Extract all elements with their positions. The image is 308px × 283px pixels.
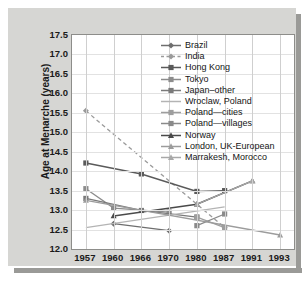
legend-marker-icon (168, 110, 173, 115)
legend-item: Wroclaw, Poland (160, 96, 292, 107)
chart-panel: Age at Menarche (years) 12.012.513.013.5… (8, 8, 296, 266)
x-tick-label: 1987 (213, 252, 234, 263)
y-tick-label: 14.0 (50, 165, 69, 176)
x-tick-label: 1993 (269, 252, 290, 263)
legend-label: Brazil (182, 40, 208, 51)
legend-label: India (182, 51, 205, 62)
chart-legend: BrazilIndiaHong KongTokyoJapan–otherWroc… (160, 40, 292, 163)
legend-label: Poland—cities (182, 107, 243, 118)
legend-marker-icon (168, 88, 173, 93)
legend-label: Wroclaw, Poland (182, 96, 252, 107)
legend-label: Japan–other (182, 85, 235, 96)
horizontal-gridline (72, 210, 294, 211)
legend-item: Hong Kong (160, 62, 292, 73)
legend-label: Tokyo (182, 74, 209, 85)
legend-swatch-icon (160, 85, 182, 96)
y-tick-label: 14.5 (50, 145, 69, 156)
legend-swatch-icon (160, 74, 182, 85)
legend-item: India (160, 51, 292, 62)
horizontal-gridline (72, 191, 294, 192)
legend-marker-icon (168, 121, 173, 126)
legend-item: Tokyo (160, 74, 292, 85)
y-tick-label: 13.5 (50, 184, 69, 195)
legend-item: London, UK-European (160, 141, 292, 152)
x-tick-label: 1966 (130, 252, 151, 263)
legend-swatch-icon (160, 62, 182, 73)
legend-item: Japan–other (160, 85, 292, 96)
y-tick-label: 15.0 (50, 126, 69, 137)
horizontal-gridline (72, 230, 294, 231)
x-axis-tick-labels: 19571960196619701980198719911993 (71, 252, 295, 268)
legend-swatch-icon (160, 152, 182, 163)
legend-marker-icon (168, 43, 174, 49)
legend-swatch-icon (160, 40, 182, 51)
x-tick-label: 1970 (158, 252, 179, 263)
legend-swatch-icon (160, 141, 182, 152)
y-tick-label: 12.5 (50, 223, 69, 234)
y-tick-label: 12.0 (50, 243, 69, 254)
legend-label: Poland—villages (182, 118, 252, 129)
legend-label: Marrakesh, Morocco (182, 152, 267, 163)
horizontal-gridline (72, 171, 294, 172)
series-line (86, 163, 225, 191)
legend-item: Marrakesh, Morocco (160, 152, 292, 163)
panel-drop-shadow-bottom (14, 268, 302, 273)
legend-swatch-icon (160, 51, 182, 62)
legend-swatch-icon (160, 96, 182, 107)
x-tick-label: 1980 (185, 252, 206, 263)
legend-item: Poland—villages (160, 118, 292, 129)
legend-label: Hong Kong (182, 62, 230, 73)
y-tick-label: 16.0 (50, 87, 69, 98)
x-tick-label: 1991 (241, 252, 262, 263)
x-tick-label: 1957 (74, 252, 95, 263)
series-norway (111, 178, 256, 219)
legend-label: London, UK-European (182, 141, 275, 152)
legend-swatch-icon (160, 130, 182, 141)
figure: Age at Menarche (years) 12.012.513.013.5… (0, 0, 308, 283)
x-tick-label: 1960 (102, 252, 123, 263)
legend-swatch-icon (160, 118, 182, 129)
y-tick-label: 16.5 (50, 67, 69, 78)
legend-item: Norway (160, 130, 292, 141)
y-tick-label: 17.0 (50, 48, 69, 59)
legend-marker-icon (168, 54, 174, 60)
legend-marker-icon (168, 65, 173, 70)
vertical-gridline (114, 35, 115, 249)
series-hong-kong (83, 160, 227, 194)
legend-swatch-icon (160, 107, 182, 118)
legend-marker-icon (168, 77, 173, 82)
vertical-gridline (86, 35, 87, 249)
y-axis-tick-labels: 12.012.513.013.514.014.515.015.516.016.5… (36, 28, 68, 256)
vertical-gridline (141, 35, 142, 249)
legend-item: Brazil (160, 40, 292, 51)
y-tick-label: 13.0 (50, 204, 69, 215)
y-tick-label: 17.5 (50, 29, 69, 40)
panel-drop-shadow-right (296, 14, 301, 273)
series-line (86, 189, 169, 212)
y-tick-label: 15.5 (50, 106, 69, 117)
legend-item: Poland—cities (160, 107, 292, 118)
legend-label: Norway (182, 130, 216, 141)
